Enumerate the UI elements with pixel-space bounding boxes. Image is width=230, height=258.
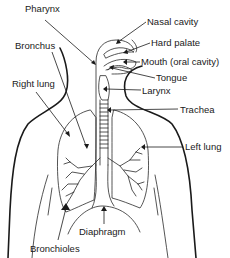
label-mouth: Mouth (oral cavity) bbox=[141, 57, 219, 67]
label-diaphragm: Diaphragm bbox=[79, 227, 125, 237]
right-arm-inner bbox=[155, 175, 168, 258]
pharynx-outline bbox=[96, 40, 134, 165]
larynx-shape bbox=[99, 76, 110, 100]
label-larynx: Larynx bbox=[142, 86, 171, 96]
left-torso bbox=[48, 188, 52, 215]
label-bronchioles: Bronchioles bbox=[30, 244, 80, 254]
label-tongue: Tongue bbox=[156, 73, 187, 83]
label-left-lung: Left lung bbox=[185, 142, 221, 152]
label-trachea: Trachea bbox=[180, 105, 215, 115]
label-right-lung: Right lung bbox=[12, 79, 55, 89]
right-torso bbox=[154, 188, 158, 215]
bronchial-tree bbox=[62, 148, 144, 205]
label-pharynx: Pharynx bbox=[25, 4, 60, 14]
respiratory-system-diagram: Pharynx Nasal cavity Hard palate Bronchu… bbox=[0, 0, 230, 258]
hard-palate-line bbox=[132, 40, 137, 52]
label-hard-palate: Hard palate bbox=[151, 38, 200, 48]
label-bronchus: Bronchus bbox=[15, 41, 55, 51]
right-lung-outline bbox=[57, 110, 96, 212]
nasal-passage bbox=[104, 48, 134, 58]
label-nasal-cavity: Nasal cavity bbox=[147, 17, 198, 27]
trachea-rings bbox=[100, 104, 108, 148]
